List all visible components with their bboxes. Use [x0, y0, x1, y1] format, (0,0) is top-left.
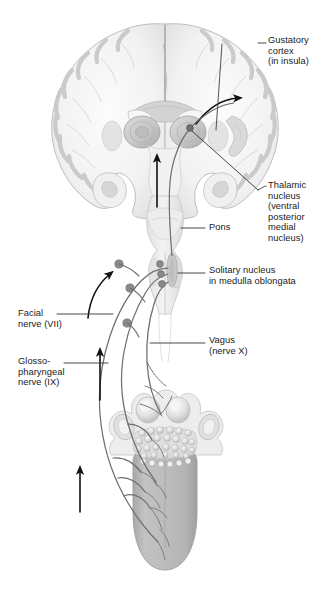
label-gustatory-cortex: Gustatory cortex (in insula): [268, 35, 309, 67]
gustatory-pathway-figure: Gustatory cortex (in insula) Thalamic nu…: [0, 0, 330, 592]
label-facial-nerve: Facial nerve (VII): [18, 308, 62, 329]
label-solitary-nucleus: Solitary nucleus in medulla oblongata: [209, 265, 296, 286]
label-glossopharyngeal-nerve: Glosso- pharyngeal nerve (IX): [18, 356, 65, 388]
cerebrum-coronal-section: [52, 24, 279, 219]
arrow-medulla-curved: [88, 274, 110, 318]
brainstem: [147, 196, 184, 362]
anatomy-illustration: [0, 0, 330, 592]
label-vagus-nerve: Vagus (nerve X): [209, 335, 248, 356]
label-pons: Pons: [209, 222, 230, 233]
label-thalamic-nucleus: Thalamic nucleus (ventral posterior medi…: [268, 180, 306, 244]
